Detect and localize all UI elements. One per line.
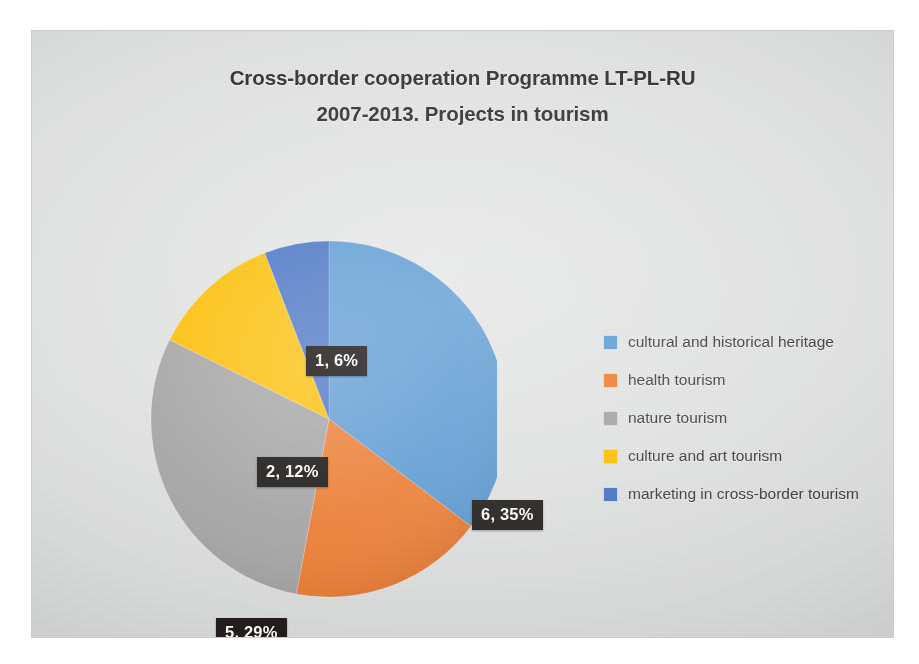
- legend-item-label: cultural and historical heritage: [628, 333, 834, 351]
- legend-item[interactable]: nature tourism: [604, 399, 893, 437]
- slide-canvas: Cross-border cooperation Programme LT-PL…: [32, 31, 893, 637]
- legend-item[interactable]: culture and art tourism: [604, 437, 893, 475]
- legend-item[interactable]: marketing in cross-border tourism: [604, 475, 893, 513]
- legend-item-label: marketing in cross-border tourism: [628, 485, 859, 503]
- data-label-cultural-and-historical-heritage: 6, 35%: [472, 500, 543, 530]
- legend-swatch-icon: [604, 336, 617, 349]
- legend-swatch-icon: [604, 450, 617, 463]
- legend-item[interactable]: cultural and historical heritage: [604, 323, 893, 361]
- legend-swatch-icon: [604, 488, 617, 501]
- legend-swatch-icon: [604, 374, 617, 387]
- chart-legend: cultural and historical heritage health …: [604, 323, 893, 513]
- legend-item-label: health tourism: [628, 371, 725, 389]
- data-label-marketing-in-cross-border-tourism: 1, 6%: [306, 346, 367, 376]
- pie-chart: 6, 35% 3, 18% 5, 29% 2, 12% 1, 6%: [87, 181, 497, 601]
- legend-item-label: nature tourism: [628, 409, 727, 427]
- legend-item[interactable]: health tourism: [604, 361, 893, 399]
- data-label-nature-tourism: 5, 29%: [216, 618, 287, 637]
- chart-title: Cross-border cooperation Programme LT-PL…: [32, 60, 893, 132]
- data-label-culture-and-art-tourism: 2, 12%: [257, 457, 328, 487]
- legend-item-label: culture and art tourism: [628, 447, 782, 465]
- legend-swatch-icon: [604, 412, 617, 425]
- pie-chart-svg: [87, 181, 497, 601]
- chart-title-line-2: 2007-2013. Projects in tourism: [32, 96, 893, 132]
- chart-title-line-1: Cross-border cooperation Programme LT-PL…: [32, 60, 893, 96]
